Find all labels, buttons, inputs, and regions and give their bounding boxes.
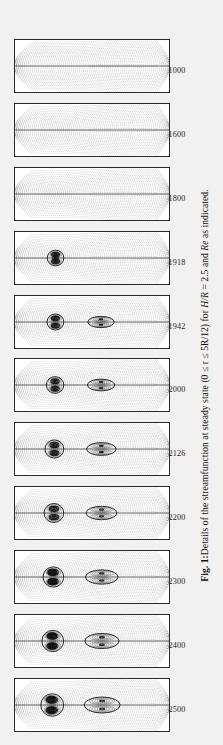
caption-body-1: Details of the streamfunction at steady … — [199, 308, 210, 555]
streamfunction-panel — [14, 614, 170, 668]
streamfunction-panel — [14, 167, 170, 221]
panel-cell: 2200 — [14, 481, 170, 545]
streamline-contours — [14, 486, 170, 540]
caption-math-re: Re — [199, 240, 210, 250]
streamline-contours — [14, 103, 170, 157]
re-value-label: 2000 — [168, 385, 185, 394]
rotated-figure-frame: 1000160018001918194220002126220023002400… — [0, 0, 223, 745]
streamline-contours — [14, 678, 170, 732]
streamline-contours — [14, 167, 170, 221]
streamfunction-panel — [14, 422, 170, 476]
re-value-label: 1918 — [168, 258, 185, 267]
streamline-contours — [14, 295, 170, 349]
streamfunction-panel — [14, 231, 170, 285]
caption-math-hr: H/R — [199, 292, 210, 308]
panel-cell: 2000 — [14, 353, 170, 417]
figure-caption: Fig. 1:Details of the streamfunction at … — [199, 34, 210, 737]
streamline-contours — [14, 550, 170, 604]
panel-cell: 2400 — [14, 609, 170, 673]
streamfunction-panel — [14, 486, 170, 540]
re-value-label: 2500 — [168, 705, 185, 714]
panel-cell: 2500 — [14, 673, 170, 737]
streamline-contours — [14, 422, 170, 476]
panel-cell: 1918 — [14, 226, 170, 290]
panel-cell: 2126 — [14, 417, 170, 481]
streamfunction-panel — [14, 39, 170, 93]
streamfunction-panel — [14, 295, 170, 349]
figure-label: Fig. 1: — [199, 555, 210, 581]
streamfunction-panel — [14, 678, 170, 732]
streamfunction-panel — [14, 358, 170, 412]
re-value-label: 2400 — [168, 641, 185, 650]
caption-body-2: = 2.5 and — [199, 251, 210, 292]
re-value-label: 1942 — [168, 322, 185, 331]
streamfunction-panel — [14, 550, 170, 604]
streamline-contours — [14, 614, 170, 668]
panel-cell: 1800 — [14, 162, 170, 226]
panel-strip: 1000160018001918194220002126220023002400… — [14, 34, 170, 737]
streamline-contours — [14, 358, 170, 412]
re-value-label: 1600 — [168, 130, 185, 139]
streamline-contours — [14, 231, 170, 285]
re-value-label: 2126 — [168, 449, 185, 458]
panel-cell: 1600 — [14, 98, 170, 162]
streamfunction-panel — [14, 103, 170, 157]
re-value-label: 2200 — [168, 513, 185, 522]
figure-page: 1000160018001918194220002126220023002400… — [0, 0, 223, 745]
streamline-contours — [14, 39, 170, 93]
panel-cell: 2300 — [14, 545, 170, 609]
panel-cell: 1942 — [14, 290, 170, 354]
re-value-label: 1800 — [168, 194, 185, 203]
panel-cell: 1000 — [14, 34, 170, 98]
caption-body-3: as indicated. — [199, 189, 210, 240]
re-value-label: 2300 — [168, 577, 185, 586]
re-value-label: 1000 — [168, 66, 185, 75]
